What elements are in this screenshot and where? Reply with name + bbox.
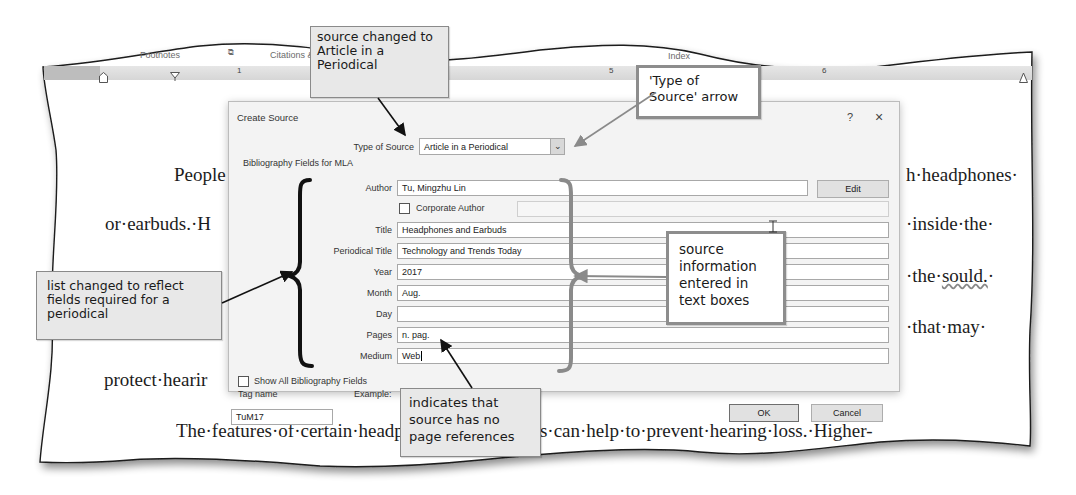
- misspelled-word[interactable]: sould.: [942, 265, 988, 286]
- create-source-dialog: Create Source ? × Type of Source Article…: [228, 101, 900, 392]
- field-label-periodical-title: Periodical Title: [242, 246, 392, 256]
- tag-name-input[interactable]: TuM17: [231, 409, 333, 425]
- right-indent-marker-icon[interactable]: [1019, 68, 1028, 79]
- show-all-fields-label: Show All Bibliography Fields: [254, 376, 367, 386]
- chevron-down-icon[interactable]: ⌄: [550, 139, 564, 154]
- doc-text[interactable]: ·the·sould.·: [906, 265, 994, 287]
- callout-no-page-references: indicates that source has no page refere…: [400, 388, 541, 457]
- day-input[interactable]: [397, 306, 889, 322]
- tag-name-label: Tag name: [238, 389, 278, 399]
- help-button[interactable]: ?: [847, 111, 853, 123]
- type-of-source-value: Article in a Periodical: [424, 142, 508, 152]
- text-cursor: [421, 351, 425, 361]
- doc-text[interactable]: or·earbuds.·H: [105, 213, 211, 235]
- doc-text[interactable]: protect·hearir: [104, 369, 207, 391]
- edit-button[interactable]: Edit: [817, 180, 889, 198]
- pages-input[interactable]: n. pag.: [397, 327, 889, 343]
- type-of-source-select[interactable]: Article in a Periodical ⌄: [419, 138, 565, 155]
- left-indent-marker-icon[interactable]: [99, 68, 108, 79]
- horizontal-ruler[interactable]: 1 2 3 5 6: [44, 66, 1032, 80]
- ribbon-group-index[interactable]: Index: [668, 51, 690, 61]
- doc-text[interactable]: ·that·may·: [906, 316, 986, 338]
- ruler-left-margin: [44, 66, 100, 80]
- example-label: Example:: [354, 389, 392, 399]
- dialog-launcher-icon[interactable]: ⧉: [228, 48, 234, 58]
- cancel-button[interactable]: Cancel: [811, 404, 883, 422]
- show-all-fields-checkbox[interactable]: [238, 376, 249, 387]
- field-label-pages: Pages: [242, 330, 392, 340]
- doc-text[interactable]: h·headphones·: [906, 164, 1018, 186]
- month-input[interactable]: Aug.: [397, 285, 889, 301]
- ruler-number: 1: [237, 66, 241, 75]
- field-label-month: Month: [242, 288, 392, 298]
- field-label-year: Year: [242, 267, 392, 277]
- dialog-title: Create Source: [237, 112, 298, 123]
- callout-source-information: source information entered in text boxes: [666, 231, 786, 325]
- year-input[interactable]: 2017: [397, 264, 889, 280]
- doc-text: ·the·: [906, 265, 942, 286]
- corporate-author-checkbox[interactable]: [399, 203, 410, 214]
- callout-source-changed: source changed to Article in a Periodica…: [310, 26, 449, 98]
- author-input[interactable]: Tu, Mingzhu Lin: [397, 180, 808, 196]
- field-label-day: Day: [242, 309, 392, 319]
- medium-input[interactable]: Web: [397, 348, 889, 364]
- field-label-author: Author: [242, 183, 392, 193]
- first-line-indent-marker-icon[interactable]: [170, 66, 180, 75]
- field-label-title: Title: [242, 225, 392, 235]
- periodical-title-input[interactable]: Technology and Trends Today: [397, 243, 889, 259]
- ruler-number: 5: [609, 66, 613, 75]
- type-of-source-label: Type of Source: [264, 142, 414, 152]
- section-header: Bibliography Fields for MLA: [243, 158, 353, 168]
- doc-text: ·: [988, 265, 994, 286]
- corporate-author-input[interactable]: [517, 201, 889, 217]
- ribbon-group-footnotes[interactable]: Footnotes: [140, 50, 180, 60]
- ok-button[interactable]: OK: [729, 404, 799, 422]
- doc-text[interactable]: ·inside·the·: [906, 213, 994, 235]
- field-label-medium: Medium: [242, 351, 392, 361]
- callout-list-changed: list changed to reflect fields required …: [36, 271, 222, 340]
- ruler-number: 6: [822, 66, 826, 75]
- callout-type-of-source-arrow: 'Type of Source' arrow: [636, 65, 761, 119]
- close-button[interactable]: ×: [875, 109, 883, 125]
- title-input[interactable]: Headphones and Earbuds: [397, 222, 889, 238]
- medium-value: Web: [402, 351, 420, 361]
- doc-text[interactable]: People: [174, 164, 226, 186]
- corporate-author-label: Corporate Author: [416, 203, 485, 213]
